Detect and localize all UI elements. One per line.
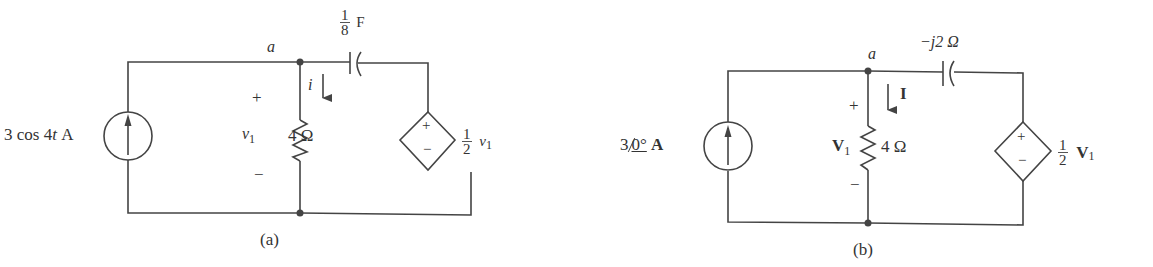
caption-b: (b) — [853, 240, 873, 260]
dep-label-a: 1 2 v1 — [462, 127, 492, 156]
resistor-label-a: 4 Ω — [288, 126, 313, 146]
node-a-top-b — [865, 68, 872, 75]
resistor-label-b: 4 Ω — [881, 137, 906, 157]
wire-top-right-a — [358, 63, 428, 112]
capacitor-curve-a — [357, 52, 361, 76]
dep-minus-a: − — [423, 141, 431, 158]
capacitor-curve-b — [950, 61, 954, 86]
dep-minus-b: − — [1018, 152, 1026, 169]
circuit-b — [704, 61, 1051, 227]
plus-sign-a: + — [252, 88, 262, 108]
minus-sign-a: − — [254, 165, 264, 185]
capacitor-label-a: 1 8 F — [340, 8, 365, 37]
dep-label-b: 1 2 V1 — [1058, 138, 1095, 167]
wire-bottom-b — [728, 171, 1023, 225]
wire-top-right-b — [954, 72, 1023, 122]
dep-plus-a: + — [422, 117, 430, 134]
caption-a: (a) — [260, 230, 279, 250]
source-label-a: 3 cos 4t A — [4, 125, 73, 145]
node-label-a: a — [267, 38, 275, 56]
node-a-top — [297, 59, 304, 66]
node-a-bottom — [297, 210, 304, 217]
wire-top-left-a — [128, 62, 300, 112]
wire-top-left-b — [728, 71, 868, 122]
voltage-label-b: V1 — [832, 136, 850, 159]
voltage-label-a: v1 — [242, 125, 255, 147]
capacitor-label-b: −j2 Ω — [920, 33, 959, 51]
dep-plus-b: + — [1017, 128, 1025, 145]
plus-sign-b: + — [849, 96, 859, 116]
current-label-b: I — [900, 84, 907, 104]
minus-sign-b: − — [850, 175, 860, 195]
current-label-a: i — [308, 76, 312, 94]
resistor-b — [861, 126, 875, 170]
node-label-b: a — [868, 45, 876, 63]
node-a-bottom-b — [865, 220, 872, 227]
source-label-b: 30° A — [620, 135, 663, 155]
wire-top-mid-b — [868, 71, 943, 72]
